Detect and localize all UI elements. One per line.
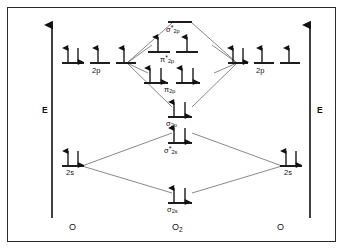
species-label-left-atom: O [69,222,76,232]
orbital-label-right-2s: 2s [284,168,292,177]
sigma-2p-subscript: 2p [171,122,177,128]
orbital-label-sigma-star-2p: σ*2p [166,24,180,34]
orbital-label-sigma-2p: σ2p [166,119,177,128]
pi-2p-subscript: 2p [169,88,175,94]
orbital-label-right-2p: 2p [256,66,264,75]
energy-axis-label-right: E [317,105,323,115]
sigma-star-2p-subscript: 2p [173,28,179,34]
orbital-label-left-2s: 2s [66,168,74,177]
pi-star-2p-subscript: 2p [168,58,174,64]
molecule-element-symbol: O [172,222,179,232]
orbital-label-pi-star-2p: π*2p [160,54,174,64]
orbital-label-left-2p: 2p [92,66,100,75]
sigma-star-2s-subscript: 2s [171,149,177,155]
orbital-label-pi-2p: π2p [164,85,175,94]
mo-diagram-canvas: E E 2p 2p 2s 2s σ*2p π*2p π2p σ2p σ*2s σ… [0,0,345,251]
orbital-label-sigma-star-2s: σ*2s [164,145,177,155]
species-label-right-atom: O [277,222,284,232]
species-label-molecule: O2 [172,222,183,233]
energy-axis-label-left: E [42,105,48,115]
molecule-subscript: 2 [179,226,183,233]
sigma-2s-subscript: 2s [172,208,178,214]
orbital-label-sigma-2s: σ2s [167,205,178,214]
